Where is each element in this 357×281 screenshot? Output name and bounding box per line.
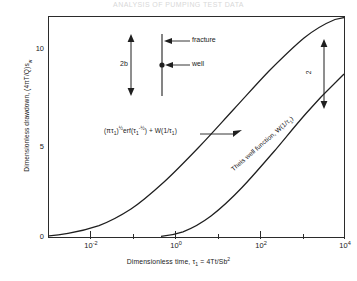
figure-semilog-drawdown-plot: ANALYSIS OF PUMPING TEST DATA 10 5 0 Dim… — [0, 0, 357, 281]
x-tick-major-1e2 — [260, 231, 261, 239]
x-axis-title-eq: = 4Tt/Sb — [198, 258, 227, 265]
well-label: well — [192, 60, 204, 67]
y-tick-label-5: 5 — [18, 142, 44, 151]
inset-svg — [112, 30, 242, 100]
x-tick-label-1e0: 100 — [170, 241, 181, 250]
aperture-label: 2b — [120, 60, 128, 67]
x-tick-label-exponent: 4 — [348, 240, 351, 246]
formula-exp-half: ½ — [119, 126, 123, 131]
y-tick-label-0: 0 — [18, 232, 44, 241]
upper-curve-formula-label: (πτ1)½erf(τ1-½) + W(1/τ1) — [104, 127, 177, 134]
cropped-page-caption: ANALYSIS OF PUMPING TEST DATA — [0, 0, 357, 9]
x-tick-major-1e4 — [344, 231, 345, 239]
x-tick-label-1e-2: 10-2 — [84, 241, 97, 250]
x-axis-title-main: Dimensionless time, — [127, 258, 193, 265]
formula-tau-sub: 1 — [114, 131, 117, 136]
x-tick-major-1e0 — [175, 231, 176, 239]
y-axis-title-main: Dimensionless drawdown, (4 — [23, 85, 30, 172]
x-tick-label-exponent: -2 — [93, 240, 98, 246]
x-tick-label-exponent: 2 — [264, 240, 267, 246]
formula-tau3-sub: 1 — [172, 131, 175, 136]
inset-fracture-well-diagram: 2b fracture well — [112, 30, 242, 100]
x-axis-title: Dimensionless time, τ1 = 4Tt/Sb2 — [0, 258, 357, 265]
x-tick-minor-1e1 — [218, 234, 219, 239]
formula-exp-neg-half: -½ — [139, 126, 145, 131]
y-axis-title-mid: T/Q)s — [23, 63, 30, 80]
x-tick-label-1e2: 102 — [255, 241, 266, 250]
y-axis-title-sub: w — [28, 60, 33, 64]
fracture-label: fracture — [192, 36, 216, 43]
curve-gap-arrow — [311, 39, 337, 109]
y-axis-title: Dimensionless drawdown, (4πT/Q)sw — [23, 26, 30, 206]
x-tick-label-1e4: 104 — [339, 241, 350, 250]
y-tick-label-10: 10 — [18, 44, 44, 53]
x-axis-title-exp: 2 — [227, 256, 230, 262]
x-tick-minor-1e3 — [303, 234, 304, 239]
formula-leader-arrow — [200, 127, 246, 143]
formula-tau2-sub: 1 — [136, 131, 139, 136]
y-axis-title-pi: π — [23, 80, 30, 85]
x-tick-minor-1e-1 — [133, 234, 134, 239]
x-tick-major-1e-2 — [90, 231, 91, 239]
x-tick-label-exponent: 0 — [179, 240, 182, 246]
curve-gap-value-label: 2 — [305, 71, 312, 75]
